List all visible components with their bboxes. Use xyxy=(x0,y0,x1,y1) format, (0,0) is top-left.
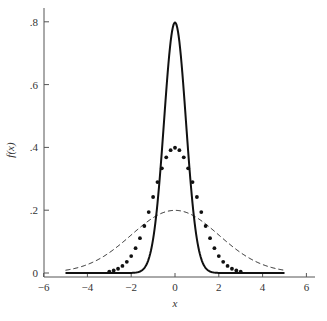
dotted-curve-point xyxy=(107,270,111,274)
chart-canvas: −6−4−20246 0.2.4.6.8 x f(x) xyxy=(0,0,327,321)
dotted-curve-point xyxy=(112,269,116,273)
dotted-curve-point xyxy=(156,180,160,184)
x-tick-label: −2 xyxy=(125,281,137,293)
x-axis-label: x xyxy=(172,297,178,309)
dotted-curve-point xyxy=(164,155,168,159)
dotted-curve-point xyxy=(134,246,138,250)
dotted-curve-point xyxy=(234,269,238,273)
dotted-curve-point xyxy=(186,166,190,170)
x-tick-label: −6 xyxy=(38,281,50,293)
x-tick-label: 4 xyxy=(260,281,266,293)
dotted-curve-point xyxy=(151,195,155,199)
dotted-curve-point xyxy=(221,260,225,264)
dotted-curve-point xyxy=(177,148,181,152)
dotted-curve-point xyxy=(199,210,203,214)
y-tick-label: .4 xyxy=(30,141,39,153)
x-tick-label: −4 xyxy=(82,281,94,293)
x-ticks: −6−4−20246 xyxy=(38,273,310,293)
dotted-curve-point xyxy=(217,254,221,258)
x-tick-label: 2 xyxy=(216,281,222,293)
x-tick-label: 0 xyxy=(172,281,178,293)
dotted-curve-point xyxy=(239,270,243,274)
dotted-curve-point xyxy=(116,267,120,271)
dotted-curve-point xyxy=(160,166,164,170)
dotted-curve-point xyxy=(182,155,186,159)
dotted-curve-point xyxy=(173,146,177,150)
dotted-curve-point xyxy=(213,246,217,250)
y-tick-label: .6 xyxy=(30,79,39,91)
dotted-curve-point xyxy=(121,264,125,268)
x-tick-label: 6 xyxy=(304,281,310,293)
dotted-curve-point xyxy=(208,236,212,240)
dashed-curve xyxy=(66,210,285,270)
dotted-curve-point xyxy=(226,264,230,268)
y-tick-label: .8 xyxy=(30,16,39,28)
y-tick-label: .2 xyxy=(30,204,38,216)
dotted-curve-point xyxy=(169,148,173,152)
y-ticks: 0.2.4.6.8 xyxy=(30,16,49,279)
dotted-curve-point xyxy=(147,210,151,214)
dotted-curve-point xyxy=(230,267,234,271)
dotted-curve-point xyxy=(129,254,133,258)
curves xyxy=(66,22,285,273)
dotted-curve-point xyxy=(125,260,129,264)
dotted-curve-point xyxy=(138,236,142,240)
y-tick-label: 0 xyxy=(33,267,39,279)
y-axis-label: f(x) xyxy=(4,142,17,158)
dotted-curve-point xyxy=(191,180,195,184)
dotted-curve-point xyxy=(195,195,199,199)
